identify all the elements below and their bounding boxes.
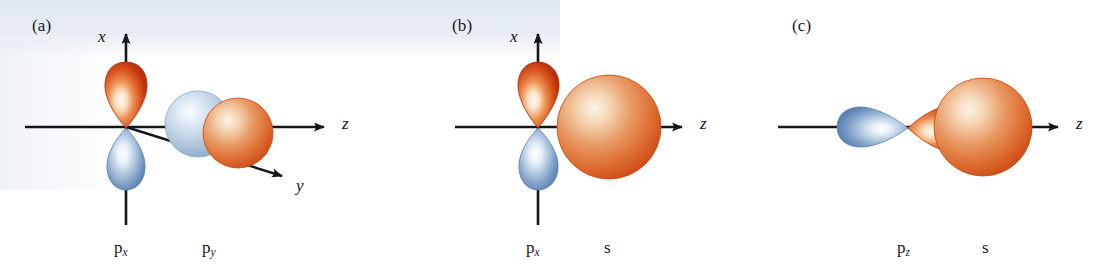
axis-label-x-a: x (98, 27, 106, 47)
axis-label-z-a: z (342, 114, 349, 134)
orbital-overlap-figure: (a) x z y px (0, 0, 1108, 276)
p-y-sphere-orange (203, 98, 273, 168)
p-z-lobe-blue (837, 107, 908, 147)
axis-label-z-b: z (700, 114, 707, 134)
axis-label-z-c: z (1076, 114, 1083, 134)
p-x-lobe-blue (519, 128, 558, 190)
panel-a-graphic (0, 0, 370, 276)
label-p-x-a-sub: x (123, 246, 128, 258)
label-s-c: s (982, 238, 989, 258)
label-p-z-c-base: p (897, 238, 906, 257)
panel-b-graphic (370, 0, 740, 276)
panel-b: (b) x z px s (370, 0, 740, 276)
axis-label-x-b: x (510, 27, 518, 47)
label-p-x-b: px (526, 238, 540, 258)
panel-a: (a) x z y px (0, 0, 370, 276)
label-s-c-base: s (982, 238, 989, 257)
label-p-x-b-base: p (526, 238, 535, 257)
s-sphere-orange (557, 75, 661, 179)
label-p-y-a-sub: y (211, 246, 216, 258)
label-p-y-a: py (202, 238, 216, 258)
label-s-b: s (604, 238, 611, 258)
label-p-x-b-sub: x (535, 246, 540, 258)
label-p-x-a: px (114, 238, 128, 258)
p-x-lobe-blue (107, 128, 145, 190)
panel-c-graphic (740, 0, 1108, 276)
label-p-z-c-sub: z (906, 246, 910, 258)
p-x-lobe-red (518, 62, 559, 128)
label-s-b-base: s (604, 238, 611, 257)
p-x-lobe-red (105, 62, 147, 128)
label-p-y-a-base: p (202, 238, 211, 257)
panel-c: (c) z pz s (740, 0, 1108, 276)
axis-label-y-a: y (296, 176, 304, 196)
label-p-z-c: pz (897, 238, 910, 258)
s-sphere-orange (934, 78, 1032, 176)
label-p-x-a-base: p (114, 238, 123, 257)
